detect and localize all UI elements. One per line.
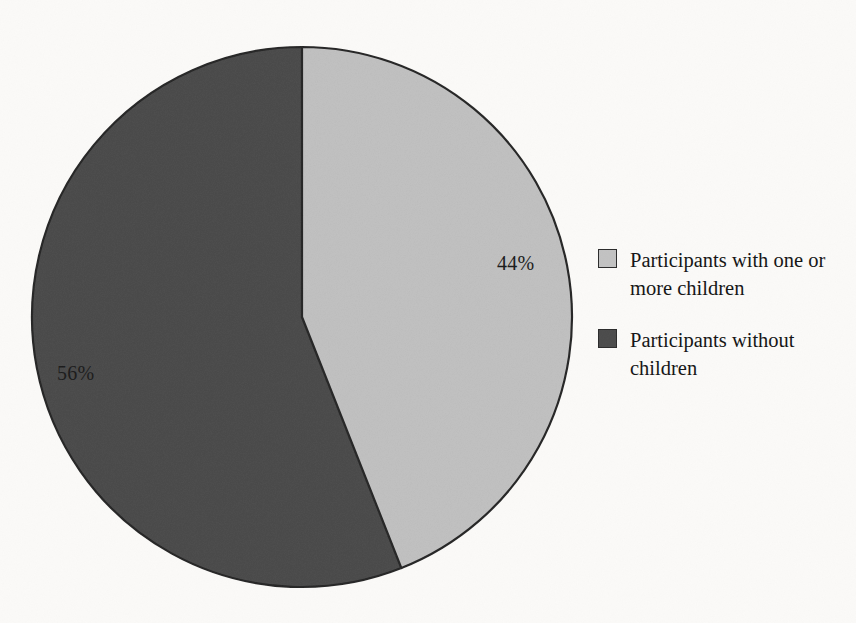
chart-legend: Participants with one or more children P… [598, 246, 848, 406]
legend-swatch-dark-icon [598, 329, 617, 348]
legend-label-participants-with-children: Participants with one or more children [630, 246, 835, 302]
legend-item-participants-with-children[interactable]: Participants with one or more children [598, 246, 848, 302]
pie-chart-figure: 44% 56% Participants with one or more ch… [0, 0, 856, 623]
pie-slice-label-56-percent: 56% [57, 362, 94, 385]
legend-item-participants-without-children[interactable]: Participants without children [598, 326, 848, 382]
legend-label-participants-without-children: Participants without children [630, 326, 835, 382]
pie-slice-label-44-percent: 44% [497, 252, 534, 275]
legend-swatch-light-icon [598, 249, 617, 268]
